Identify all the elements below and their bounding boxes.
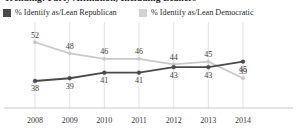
x-tick-label-2012: 2012	[166, 116, 182, 125]
data-label: 46	[135, 47, 143, 56]
legend-item-democratic: % Identify as/Lean Democratic	[139, 9, 254, 17]
data-point-marker	[172, 65, 176, 69]
data-point-marker	[102, 71, 106, 75]
x-tick-label-2010: 2010	[96, 116, 112, 125]
data-label: 43	[170, 71, 178, 80]
x-tick-label-2008: 2008	[27, 116, 43, 125]
line-chart-svg: 5248464644453938394141434345	[0, 22, 301, 114]
data-label: 41	[100, 76, 108, 85]
x-axis-tick-labels: 2008200920102011201220132014	[0, 116, 301, 130]
data-point-marker	[33, 79, 37, 83]
data-point-marker	[68, 52, 71, 55]
data-point-marker	[241, 60, 245, 64]
data-label: 43	[204, 71, 212, 80]
data-point-marker	[206, 65, 210, 69]
chart-card: Trending: Party Affiliation, Including L…	[0, 0, 301, 132]
legend-item-republican: % Identify as/Lean Republican	[3, 9, 117, 17]
data-label: 46	[100, 47, 108, 56]
legend-label-republican: % Identify as/Lean Republican	[15, 9, 117, 17]
data-label: 52	[31, 31, 39, 40]
data-point-marker	[103, 57, 106, 60]
data-point-marker	[68, 76, 72, 80]
chart-legend: % Identify as/Lean Republican % Identify…	[3, 9, 298, 21]
data-label: 39	[66, 82, 74, 91]
legend-swatch-democratic-icon	[139, 9, 147, 17]
chart-title-clipped: Trending: Party Affiliation, Including L…	[4, 0, 254, 6]
data-label: 48	[66, 42, 74, 51]
data-label: 45	[239, 65, 247, 74]
data-label: 38	[31, 84, 39, 93]
data-point-marker	[137, 71, 141, 75]
chart-plot-area: 5248464644453938394141434345	[0, 22, 301, 114]
data-label: 45	[204, 50, 212, 59]
legend-swatch-republican-icon	[3, 9, 11, 17]
page-title: Trending: Party Affiliation, Including L…	[4, 0, 196, 3]
data-point-marker	[33, 41, 36, 44]
x-tick-label-2013: 2013	[200, 116, 216, 125]
data-label: 44	[170, 53, 178, 62]
x-tick-label-2011: 2011	[131, 116, 147, 125]
legend-label-democratic: % Identify as/Lean Democratic	[151, 9, 254, 17]
data-point-marker	[241, 76, 244, 79]
data-label: 41	[135, 76, 143, 85]
x-tick-label-2009: 2009	[62, 116, 78, 125]
x-tick-label-2014: 2014	[235, 116, 251, 125]
data-point-marker	[137, 57, 140, 60]
data-point-marker	[207, 60, 210, 63]
